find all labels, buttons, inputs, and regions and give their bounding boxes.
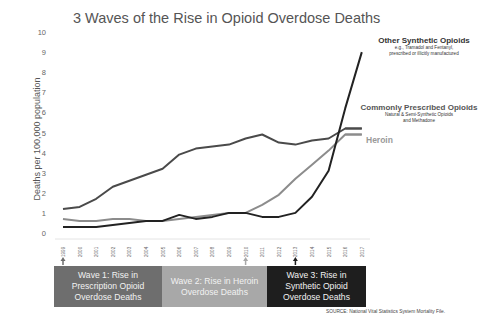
x-tick-label: 2017 [360,246,365,257]
x-tick-label: 2002 [111,246,116,257]
x-tick-label: 2014 [310,246,315,257]
synthetic-sub2: prescribed or illicitly manufactured [354,51,493,57]
x-tick-label: 2010 [244,246,249,257]
x-axis-ticks: 1999200020012002200320042005200620072008… [61,246,365,257]
y-tick-label: 1 [42,209,46,218]
prescribed-label: Commonly Prescribed Opioids [344,103,493,112]
x-tick-label: 2006 [177,246,182,257]
y-tick-label: 4 [42,149,46,158]
x-tick-label: 2003 [127,246,132,257]
x-tick-label: 2013 [293,246,298,257]
wave-3-box: Wave 3: Rise in Synthetic Opioid Overdos… [267,266,366,307]
y-tick-label: 3 [42,169,46,178]
y-tick-label: 2 [42,189,46,198]
x-tick-label: 2000 [78,246,83,257]
heroin-label: Heroin [366,135,393,145]
wave-arrows [61,257,298,265]
x-tick-label: 2009 [227,246,232,257]
wave-1-text: Wave 1: Rise in Prescription Opioid Over… [56,270,160,303]
x-tick-label: 2011 [260,247,265,257]
x-tick-label: 2012 [277,246,282,257]
wave-2-text: Wave 2: Rise in Heroin Overdose Deaths [164,276,265,298]
x-tick-label: 2005 [161,246,166,257]
x-tick-label: 2001 [94,246,99,257]
x-tick-label: 2004 [144,246,149,257]
annotation-prescribed: Commonly Prescribed Opioids Natural & Se… [344,103,493,124]
y-tick-label: 5 [42,129,46,138]
data-lines [63,52,362,227]
y-tick-label: 6 [42,108,46,117]
wave-2-box: Wave 2: Rise in Heroin Overdose Deaths [162,266,267,307]
y-tick-label: 7 [42,88,46,97]
wave-3-text: Wave 3: Rise in Synthetic Opioid Overdos… [269,270,364,303]
y-tick-label: 0 [42,229,46,238]
source-note: SOURCE: National Vital Statistics System… [326,309,445,314]
wave-1-box: Wave 1: Rise in Prescription Opioid Over… [54,266,162,307]
synthetic-label: Other Synthetic Opioids [354,36,493,45]
x-tick-label: 2007 [194,246,199,257]
x-tick-label: 2015 [327,246,332,257]
x-tick-label: 2016 [343,246,348,257]
y-tick-label: 10 [38,28,46,37]
series-line [63,129,362,209]
y-tick-label: 8 [42,68,46,77]
y-tick-label: 9 [42,48,46,57]
prescribed-sub2: and Methadone [344,118,493,124]
y-axis-ticks: 012345678910 [38,28,46,238]
x-tick-label: 1999 [61,246,66,257]
annotation-heroin: Heroin [366,135,393,145]
x-tick-label: 2008 [210,246,215,257]
annotation-synthetic: Other Synthetic Opioids e.g., Tramadol a… [354,36,493,57]
